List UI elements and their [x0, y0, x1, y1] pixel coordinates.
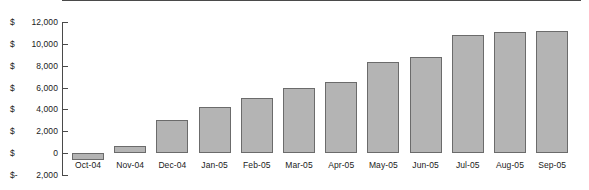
bar: [283, 88, 315, 154]
x-axis-tick-label: Dec-04: [152, 160, 192, 170]
tick-value: 0: [53, 148, 58, 158]
currency-symbol: $: [0, 61, 15, 71]
x-axis-tick-label: May-05: [363, 160, 403, 170]
tick-value: 8,000: [36, 61, 58, 71]
currency-symbol: $: [0, 17, 15, 27]
bar: [156, 120, 188, 153]
y-axis-tick-label: $2,000: [0, 126, 58, 136]
bar: [72, 153, 104, 160]
plot-area: [62, 0, 581, 175]
x-axis-tick-label: Mar-05: [279, 160, 319, 170]
y-axis-tick-label: $-2,000: [0, 170, 58, 180]
y-axis-tick-label: $0: [0, 148, 58, 158]
currency-symbol: $: [0, 39, 15, 49]
bar: [367, 62, 399, 153]
bar-chart: $12,000$10,000$8,000$6,000$4,000$2,000$0…: [0, 0, 589, 190]
x-axis-tick-label: Aug-05: [490, 160, 530, 170]
x-axis-tick-label: Apr-05: [321, 160, 361, 170]
tick-value: 2,000: [36, 170, 58, 180]
y-axis-tick-label: $4,000: [0, 104, 58, 114]
tick-value: 12,000: [31, 17, 58, 27]
x-axis-tick-label: Jun-05: [406, 160, 446, 170]
tick-value: 4,000: [36, 104, 58, 114]
bar: [199, 107, 231, 153]
bar: [410, 57, 442, 153]
x-axis-tick-label: Nov-04: [110, 160, 150, 170]
bar: [114, 146, 146, 153]
x-axis-tick-label: Jul-05: [448, 160, 488, 170]
x-axis-tick-label: Feb-05: [237, 160, 277, 170]
tick-value: 6,000: [36, 83, 58, 93]
y-axis-tick-label: $10,000: [0, 39, 58, 49]
y-axis-tick-label: $12,000: [0, 17, 58, 27]
tick-value: 10,000: [31, 39, 58, 49]
currency-symbol: $-: [0, 170, 18, 180]
bar: [536, 31, 568, 153]
x-axis-tick-label: Oct-04: [68, 160, 108, 170]
bar: [241, 98, 273, 153]
x-axis-tick-label: Sep-05: [532, 160, 572, 170]
bar: [452, 35, 484, 153]
y-axis-tick-label: $6,000: [0, 83, 58, 93]
bar: [494, 32, 526, 153]
x-axis-tick-label: Jan-05: [195, 160, 235, 170]
currency-symbol: $: [0, 104, 15, 114]
currency-symbol: $: [0, 148, 15, 158]
currency-symbol: $: [0, 126, 15, 136]
bar: [325, 82, 357, 153]
currency-symbol: $: [0, 83, 15, 93]
tick-value: 2,000: [36, 126, 58, 136]
y-axis-tick-label: $8,000: [0, 61, 58, 71]
